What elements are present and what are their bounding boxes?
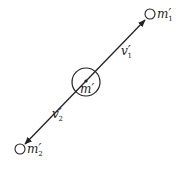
mass-1-circle [145, 9, 155, 19]
central-mass-label: m′ [80, 82, 94, 96]
velocity-1-arrow [86, 20, 145, 81]
velocity-2-label: v′2 [52, 107, 63, 123]
velocity-1-label: v′1 [121, 44, 132, 60]
mass-2-circle [15, 144, 25, 154]
mass-1-label: m′1 [157, 7, 173, 23]
mass-2-label: m′2 [27, 142, 43, 158]
diagram-canvas: m′1 m′2 m′ v′1 v′2 [0, 0, 180, 169]
